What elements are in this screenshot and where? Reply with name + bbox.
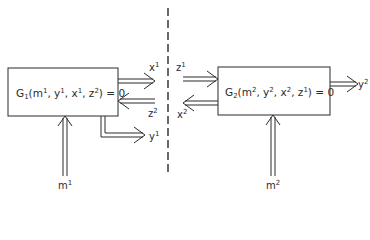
x2-arrow xyxy=(183,95,218,111)
arg-sup: 2 xyxy=(252,86,256,94)
label-sup: 2 xyxy=(364,78,368,86)
arg-sup: 1 xyxy=(78,87,82,95)
label-x1: x1 xyxy=(149,62,159,73)
equation-rhs: = 0 xyxy=(106,87,125,99)
label-sup: 2 xyxy=(183,108,187,116)
arg-sup: 1 xyxy=(60,87,64,95)
arg-base: m xyxy=(242,86,252,98)
label-z2: z2 xyxy=(148,108,158,119)
arg-sup: 2 xyxy=(287,86,291,94)
label-x2: x2 xyxy=(177,109,187,120)
equation-rhs: = 0 xyxy=(315,86,334,98)
label-m1: m1 xyxy=(58,180,72,191)
arg-sup: 2 xyxy=(269,86,273,94)
function-name: G xyxy=(225,86,233,98)
y2-arrow xyxy=(330,76,358,92)
y1-arrow xyxy=(101,116,145,143)
label-m2: m2 xyxy=(266,180,280,191)
label-sup: 2 xyxy=(276,179,280,187)
right-block-equation: G2(m2, y2, x2, z1) = 0 xyxy=(225,87,334,100)
label-sup: 2 xyxy=(153,107,157,115)
label-sup: 1 xyxy=(155,61,159,69)
z1-arrow xyxy=(183,71,218,87)
function-index: 2 xyxy=(233,92,237,100)
arg-base: m xyxy=(33,87,43,99)
m2-arrow xyxy=(266,115,280,176)
label-sup: 1 xyxy=(68,179,72,187)
arg-sup: 1 xyxy=(43,87,47,95)
label-y1: y1 xyxy=(149,131,159,142)
function-name: G xyxy=(16,87,24,99)
label-z1: z1 xyxy=(176,62,186,73)
label-base: m xyxy=(266,180,276,191)
label-y2: y2 xyxy=(358,79,368,90)
arg-sup: 1 xyxy=(303,86,307,94)
function-index: 1 xyxy=(24,93,28,101)
m1-arrow xyxy=(58,116,72,176)
label-sup: 1 xyxy=(155,130,159,138)
label-sup: 1 xyxy=(181,61,185,69)
left-block-equation: G1(m1, y1, x1, z2) = 0 xyxy=(16,88,125,101)
label-base: m xyxy=(58,180,68,191)
arg-sup: 2 xyxy=(94,87,98,95)
